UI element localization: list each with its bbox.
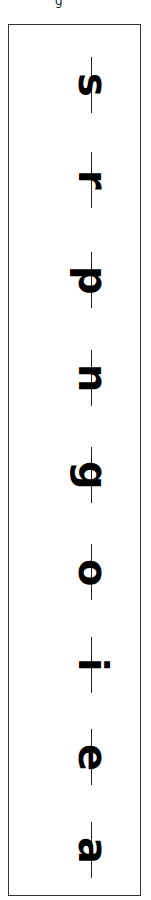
letter-e: e <box>73 744 113 771</box>
letter-i: i <box>73 658 113 672</box>
top-cropped-glyph: g <box>55 0 63 8</box>
letter-n: n <box>73 364 113 392</box>
letter-s: s <box>73 73 113 97</box>
letter-g: g <box>73 461 113 490</box>
letter-r: r <box>73 170 113 190</box>
letter-o: o <box>73 559 113 586</box>
letter-a: a <box>73 837 113 864</box>
letter-p: p <box>73 266 113 295</box>
